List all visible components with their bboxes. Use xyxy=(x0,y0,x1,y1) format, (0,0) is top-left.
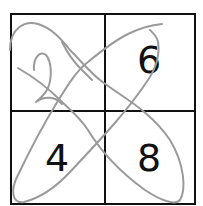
pencil-loop-diagonal-up xyxy=(13,24,162,202)
handwritten-two xyxy=(34,53,62,104)
pencil-scribble-overlay xyxy=(0,0,203,206)
pencil-loop-diagonal-down xyxy=(10,23,183,202)
